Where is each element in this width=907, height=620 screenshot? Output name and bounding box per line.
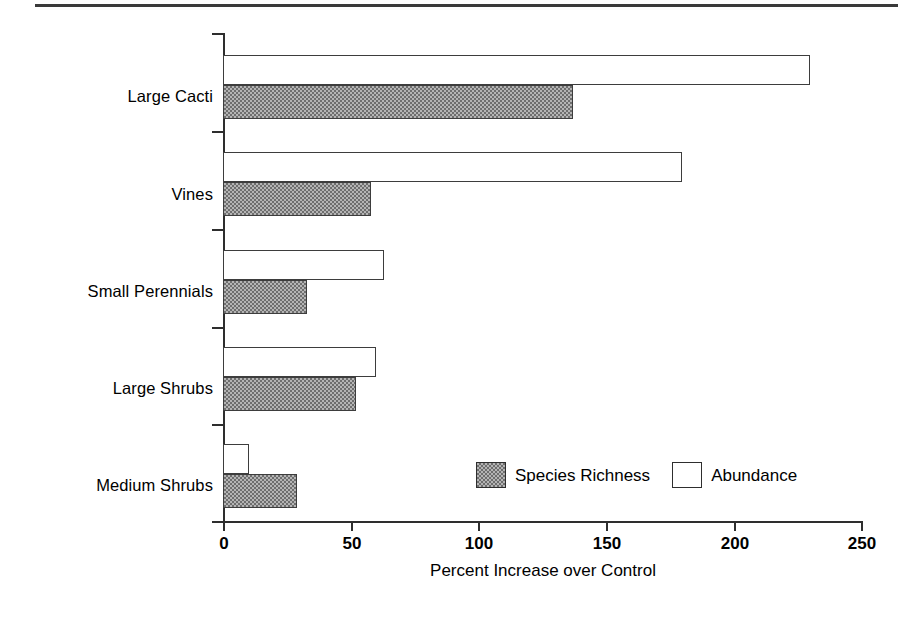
chart-legend: Species Richness Abundance [476, 459, 819, 491]
x-axis-tick-label-150: 150 [567, 535, 647, 552]
legend-swatch-species-richness-icon [476, 462, 506, 488]
bar-abundance-large-shrubs[interactable] [223, 347, 376, 377]
x-axis-tick-label-100: 100 [439, 535, 519, 552]
x-axis-tick-label-200: 200 [695, 535, 775, 552]
x-axis-line [223, 521, 863, 523]
category-label-medium-shrubs: Medium Shrubs [13, 477, 213, 494]
bar-species-richness-vines[interactable] [223, 182, 371, 216]
bar-abundance-medium-shrubs[interactable] [223, 444, 249, 474]
legend-label-abundance: Abundance [711, 467, 797, 484]
y-axis-tick [212, 229, 223, 231]
bar-abundance-small-perennials[interactable] [223, 250, 384, 280]
category-label-large-shrubs: Large Shrubs [13, 380, 213, 397]
x-axis-title: Percent Increase over Control [223, 562, 863, 579]
category-label-large-cacti: Large Cacti [13, 88, 213, 105]
bar-species-richness-small-perennials[interactable] [223, 280, 307, 314]
x-axis-tick [478, 521, 480, 531]
legend-entry-species-richness[interactable]: Species Richness [476, 462, 672, 488]
x-axis-tick [861, 521, 863, 531]
x-axis-tick [223, 521, 225, 531]
bar-abundance-large-cacti[interactable] [223, 55, 810, 85]
bar-chart-figure: Large Cacti Vines Small Perennials Large… [0, 0, 907, 620]
legend-swatch-abundance-icon [672, 462, 702, 488]
bar-species-richness-large-shrubs[interactable] [223, 377, 356, 411]
category-label-small-perennials: Small Perennials [13, 283, 213, 300]
y-axis-tick [212, 327, 223, 329]
x-axis-tick-label-50: 50 [312, 535, 392, 552]
x-axis-tick-label-0: 0 [184, 535, 264, 552]
y-axis-category-labels: Large Cacti Vines Small Perennials Large… [8, 0, 213, 620]
bar-abundance-vines[interactable] [223, 152, 682, 182]
y-axis-tick [212, 131, 223, 133]
x-axis-tick [351, 521, 353, 531]
bar-species-richness-large-cacti[interactable] [223, 85, 573, 119]
y-axis-tick [212, 424, 223, 426]
y-axis-tick [212, 521, 223, 523]
x-axis-tick-label-250: 250 [822, 535, 902, 552]
y-axis-tick [212, 33, 223, 35]
category-label-vines: Vines [13, 186, 213, 203]
x-axis-tick [606, 521, 608, 531]
legend-label-species-richness: Species Richness [515, 467, 650, 484]
legend-entry-abundance[interactable]: Abundance [672, 462, 819, 488]
x-axis-tick [734, 521, 736, 531]
bar-species-richness-medium-shrubs[interactable] [223, 474, 297, 508]
